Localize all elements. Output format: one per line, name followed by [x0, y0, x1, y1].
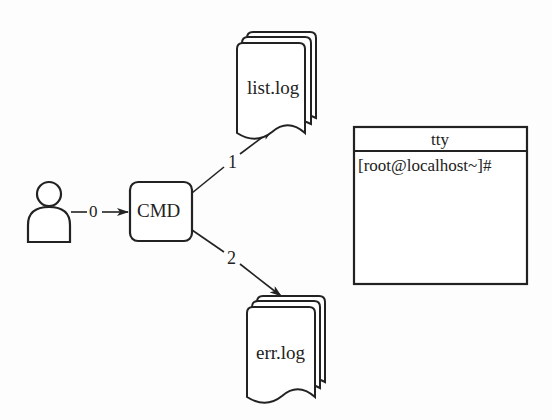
tty-prompt: [root@localhost~]# [358, 156, 491, 176]
edge-label-2: 2 [227, 248, 236, 269]
cmd-label: CMD [137, 200, 180, 222]
redirection-diagram: 0 CMD 1 2 list.log err.log tty [root@loc… [0, 0, 552, 420]
edge-2 [192, 230, 281, 296]
edge-label-1: 1 [228, 152, 237, 173]
edge-label-0: 0 [89, 202, 98, 222]
err-log-label: err.log [256, 342, 305, 364]
user-icon [28, 182, 70, 242]
list-log-label: list.log [247, 77, 299, 99]
tty-title: tty [354, 128, 526, 151]
